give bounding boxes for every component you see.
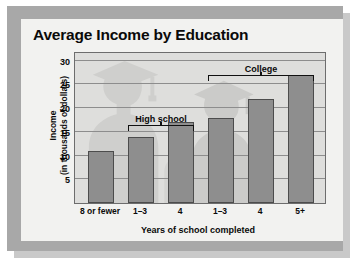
y-tick-label: 10 bbox=[60, 152, 70, 162]
x-tick-label: 8 or fewer bbox=[80, 206, 120, 216]
y-tick-label: 25 bbox=[60, 80, 70, 90]
y-tick-label: 30 bbox=[60, 57, 70, 67]
chart-panel: Average Income by Education Income (in t… bbox=[21, 19, 343, 241]
x-tick-label: 4 bbox=[178, 206, 183, 216]
x-axis-tick-labels: 8 or fewer 1–3 4 1–3 4 5+ bbox=[74, 206, 326, 220]
outer-frame-border: Average Income by Education Income (in t… bbox=[7, 6, 343, 251]
x-tick-label: 1–3 bbox=[133, 206, 147, 216]
chart-screenshot: Average Income by Education Income (in t… bbox=[0, 0, 357, 263]
y-tick-label: 5 bbox=[65, 175, 70, 185]
y-tick-label: 20 bbox=[60, 104, 70, 114]
y-axis-tick-labels: 5 10 15 20 25 30 bbox=[74, 52, 326, 204]
x-tick-label: 4 bbox=[258, 206, 263, 216]
y-tick-label: 15 bbox=[60, 128, 70, 138]
chart-title: Average Income by Education bbox=[33, 26, 248, 44]
x-tick-label: 1–3 bbox=[213, 206, 227, 216]
y-axis-title-line1: Income bbox=[48, 56, 59, 196]
x-tick-label: 5+ bbox=[295, 206, 305, 216]
x-axis-title: Years of school completed bbox=[67, 225, 329, 235]
